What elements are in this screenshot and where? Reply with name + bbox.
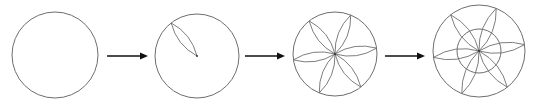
center-point: [334, 53, 336, 55]
rosette-construction-diagram: [0, 0, 536, 107]
step-1: [12, 12, 98, 98]
arrow-right-icon: [245, 53, 285, 60]
petal: [335, 54, 361, 87]
outer-circle: [12, 12, 98, 98]
step-4: [433, 5, 525, 97]
step-2: [155, 14, 239, 98]
arrow-right-icon: [107, 53, 148, 60]
arrow-right-icon: [385, 53, 425, 60]
petal: [433, 49, 479, 60]
step-3: [293, 12, 377, 96]
petal: [451, 15, 479, 51]
center-point: [196, 55, 198, 57]
center-point: [478, 50, 480, 52]
petal: [171, 23, 197, 56]
petal: [309, 21, 335, 54]
petal: [479, 42, 525, 53]
petal: [479, 51, 507, 87]
